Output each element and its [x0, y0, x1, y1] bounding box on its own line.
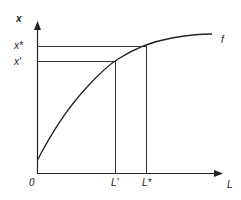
y-axis-arrow-icon [34, 21, 41, 30]
l-prime-label: L' [111, 178, 118, 188]
l-star-label: L* [142, 178, 151, 188]
y-axis-label: x [16, 14, 22, 24]
x-star-label: x* [14, 41, 23, 51]
origin-label: 0 [29, 178, 35, 188]
curve-f-label: f [221, 35, 224, 45]
x-prime-label: x' [14, 57, 21, 67]
production-function-diagram [0, 0, 241, 200]
x-axis-arrow-icon [214, 170, 223, 177]
x-axis-label: L [227, 180, 233, 190]
curve-f [38, 34, 213, 160]
